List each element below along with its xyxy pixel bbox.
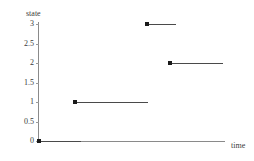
y-tick-label: 2 bbox=[8, 59, 34, 67]
step-segment bbox=[38, 141, 81, 142]
y-tick-mark bbox=[36, 122, 39, 123]
y-tick-label: 1.5 bbox=[8, 79, 34, 87]
y-tick-mark bbox=[36, 24, 39, 25]
data-point-marker bbox=[73, 100, 77, 104]
y-tick-mark bbox=[36, 83, 39, 84]
state-time-step-chart: state time 32.521.510.50 bbox=[0, 0, 254, 161]
step-segment bbox=[146, 24, 176, 25]
y-tick-mark bbox=[36, 102, 39, 103]
y-tick-label-wrap: 1.5 bbox=[6, 79, 34, 87]
x-axis-title: time bbox=[231, 142, 245, 150]
data-point-marker bbox=[168, 61, 172, 65]
y-tick-label-wrap: 0.5 bbox=[6, 118, 34, 126]
y-tick-label: 0 bbox=[8, 137, 34, 145]
y-tick-mark bbox=[36, 44, 39, 45]
y-tick-label-wrap: 1 bbox=[6, 98, 34, 106]
y-tick-label: 1 bbox=[8, 98, 34, 106]
plot-area: state time 32.521.510.50 bbox=[0, 0, 254, 161]
y-tick-label-wrap: 0 bbox=[6, 137, 34, 145]
data-point-marker bbox=[37, 139, 41, 143]
y-tick-label-wrap: 2 bbox=[6, 59, 34, 67]
step-segment bbox=[169, 63, 223, 64]
y-tick-label: 2.5 bbox=[8, 40, 34, 48]
y-tick-mark bbox=[36, 63, 39, 64]
y-tick-label-wrap: 2.5 bbox=[6, 40, 34, 48]
y-tick-label: 3 bbox=[8, 20, 34, 28]
step-segment bbox=[74, 102, 149, 103]
y-tick-label: 0.5 bbox=[8, 118, 34, 126]
y-axis-line bbox=[38, 22, 39, 142]
data-point-marker bbox=[145, 22, 149, 26]
y-tick-label-wrap: 3 bbox=[6, 20, 34, 28]
y-axis-title: state bbox=[26, 10, 41, 18]
